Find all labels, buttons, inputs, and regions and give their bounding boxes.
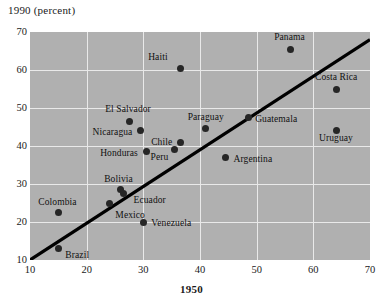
gridline-vertical [87,32,88,260]
plot-area: PanamaHaitiCosta RicaEl SalvadorGuatemal… [30,32,370,260]
data-point-label: Peru [151,152,169,162]
y-axis-tick: 50 [3,103,27,113]
y-axis-tick: 20 [3,217,27,227]
data-point [143,148,150,155]
data-point-label: Ecuador [134,195,166,205]
x-axis-tick-labels: 10203040506070 [30,264,370,278]
data-point [120,190,127,197]
data-point-label: Costa Rica [315,72,357,82]
data-point-label: Mexico [115,210,145,220]
data-point-label: Guatemala [255,114,297,124]
x-axis-tick: 40 [180,264,220,275]
x-axis-tick: 70 [350,264,383,275]
y-axis-tick: 40 [3,141,27,151]
y-axis-tick: 60 [3,65,27,75]
data-point-label: Panama [274,32,305,42]
data-point [333,86,340,93]
x-axis-tick: 20 [67,264,107,275]
y-axis-tick-labels: 10203040506070 [0,32,27,260]
data-point-label: Chile [151,137,172,147]
chart-title: 1990 (percent) [8,4,75,16]
data-point-label: Nicaragua [93,127,133,137]
data-point [106,200,113,207]
data-point [55,209,62,216]
x-axis-tick: 10 [10,264,50,275]
x-axis-tick: 50 [237,264,277,275]
gridline-vertical [200,32,201,260]
data-point-label: Argentina [234,154,273,164]
data-point-label: Uruguay [319,133,353,143]
gridline-vertical [143,32,144,260]
data-point [177,139,184,146]
data-point-label: Honduras [100,148,138,158]
x-axis-label: 1950 [0,283,383,295]
data-point-label: Paraguay [188,112,224,122]
data-point-label: El Salvador [105,104,151,114]
data-point [140,219,147,226]
data-point [55,245,62,252]
data-point-label: Bolivia [104,174,133,184]
data-point [177,65,184,72]
gridline-vertical [257,32,258,260]
data-point-label: Haiti [148,52,168,62]
x-axis-tick: 60 [293,264,333,275]
data-point [126,118,133,125]
data-point-label: Colombia [38,197,76,207]
data-point-label: Venezuela [151,218,191,228]
data-point [171,146,178,153]
data-point [202,125,209,132]
y-axis-tick: 70 [3,27,27,37]
data-point [245,114,252,121]
data-point [222,154,229,161]
y-axis-tick: 30 [3,179,27,189]
gridline-vertical [313,32,314,260]
data-point [287,46,294,53]
data-point-label: Brazil [65,250,89,260]
x-axis-tick: 30 [123,264,163,275]
scatter-plot-figure: 1990 (percent) 10203040506070 PanamaHait… [0,0,383,305]
